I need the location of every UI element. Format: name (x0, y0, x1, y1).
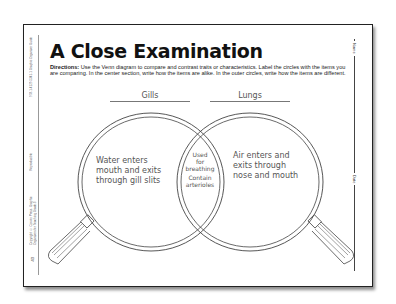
left-magnifier-handle-icon (48, 215, 94, 264)
right-magnifier-handle-icon (308, 215, 354, 264)
shared-text: Used for breathing Contain arterioles (175, 151, 225, 188)
left-only-text: Water enters mouth and exits through gil… (96, 156, 161, 186)
right-only-text: Air enters and exits through nose and mo… (233, 151, 298, 181)
worksheet-page: 978-1-4129-5341-1 Graphic Organizer Guid… (23, 24, 373, 287)
